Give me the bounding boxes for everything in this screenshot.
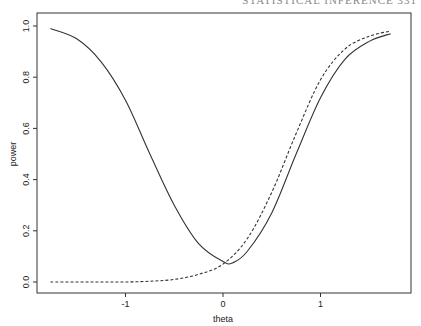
y-tick-label: 0.0 — [21, 276, 31, 289]
x-tick-label: 0 — [220, 299, 225, 309]
series-layer — [50, 29, 390, 282]
y-tick-label: 0.2 — [21, 225, 31, 238]
y-axis: 0.00.20.40.60.81.0 — [21, 20, 37, 289]
x-axis-label: theta — [213, 314, 233, 324]
y-tick-label: 0.8 — [21, 71, 31, 84]
plot-frame — [37, 13, 411, 293]
x-axis: -101 — [121, 293, 323, 309]
solid-curve — [50, 29, 390, 264]
x-tick-label: 1 — [318, 299, 323, 309]
y-axis-label: power — [8, 142, 18, 167]
y-tick-label: 0.4 — [21, 173, 31, 186]
x-tick-label: -1 — [121, 299, 129, 309]
power-chart: 0.00.20.40.60.81.0 -101 theta power — [0, 0, 421, 326]
y-tick-label: 1.0 — [21, 20, 31, 33]
dashed-curve — [50, 31, 390, 282]
y-tick-label: 0.6 — [21, 122, 31, 135]
